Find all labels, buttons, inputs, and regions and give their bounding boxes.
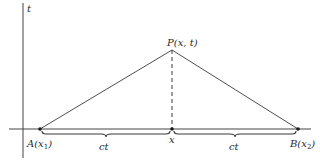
- left-brace-label: ct: [99, 141, 110, 152]
- t-axis-label: t: [27, 3, 32, 14]
- left-brace: [42, 131, 170, 137]
- point-x: [170, 127, 174, 131]
- point-p-label: P(x, t): [166, 37, 198, 48]
- point-x-label: x: [169, 134, 175, 145]
- line-p-to-b: [172, 50, 298, 129]
- point-b: [296, 127, 300, 131]
- point-a: [38, 127, 42, 131]
- point-a-label: A(x1): [26, 138, 52, 151]
- light-cone-diagram: t P(x, t) A(x1) x B(x2) ct ct: [0, 0, 320, 166]
- right-brace: [174, 131, 296, 137]
- right-brace-label: ct: [229, 141, 240, 152]
- point-b-label: B(x2): [289, 138, 315, 151]
- line-a-to-p: [40, 50, 172, 129]
